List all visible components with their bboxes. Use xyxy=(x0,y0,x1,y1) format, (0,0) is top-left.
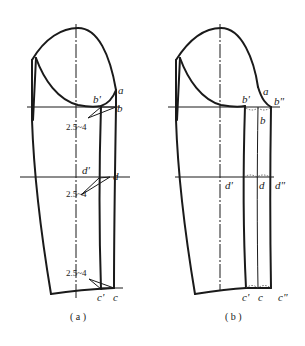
sleeve-pattern-diagram: a b' b 2.5~4 d' d 2.5~4 2.5~4 c' c ( a ) xyxy=(0,0,305,346)
notch-line xyxy=(33,58,36,120)
leader-b xyxy=(88,107,116,118)
label-b: b xyxy=(117,102,123,114)
caption-a: ( a ) xyxy=(70,311,86,323)
seam-b-prime xyxy=(244,106,246,288)
label-c: c xyxy=(113,291,118,303)
label-a: a xyxy=(263,85,269,97)
sleeve-cap-curve xyxy=(32,28,116,90)
label-c: c xyxy=(258,291,263,303)
label-d: d xyxy=(259,179,265,191)
label-d-double-prime: d" xyxy=(275,179,286,191)
label-b-prime: b' xyxy=(93,93,102,105)
panel-b: a b' b" b d' d d" c' c c" ( b ) xyxy=(168,24,288,323)
label-c-prime: c' xyxy=(97,291,105,303)
label-b-prime: b' xyxy=(242,93,251,105)
sleeve-cap-curve xyxy=(176,28,258,87)
panel-a: a b' b 2.5~4 d' d 2.5~4 2.5~4 c' c ( a ) xyxy=(20,24,130,323)
label-c-double-prime: c" xyxy=(278,291,288,303)
notch-line xyxy=(177,58,180,120)
seam-b-double-prime xyxy=(270,107,271,288)
label-b-double-prime: b" xyxy=(274,95,285,107)
measurement-b: 2.5~4 xyxy=(66,122,87,132)
measurement-d: 2.5~4 xyxy=(66,189,87,199)
measurement-c: 2.5~4 xyxy=(66,268,87,278)
inner-seam xyxy=(100,106,102,289)
label-d: d xyxy=(113,170,119,182)
label-d-prime: d' xyxy=(82,164,91,176)
right-seam xyxy=(114,90,116,288)
label-c-prime: c' xyxy=(242,291,250,303)
label-d-prime: d' xyxy=(225,179,234,191)
seam-b xyxy=(257,107,258,288)
label-b: b xyxy=(260,114,266,126)
label-a: a xyxy=(118,84,124,96)
underarm-curve xyxy=(180,58,245,107)
caption-b: ( b ) xyxy=(225,311,242,323)
